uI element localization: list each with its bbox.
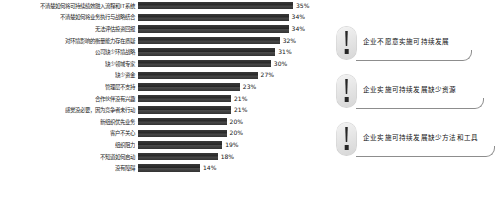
bar-track: 34% [138,23,340,35]
chart-row: 新组织优先业务20% [0,116,340,128]
bar-track: 19% [138,139,340,151]
bar-track: 23% [138,81,340,93]
bar-value-label: 27% [261,72,274,78]
bar-value-label: 18% [221,154,234,160]
callout: 企业实施可持续发展缺少方法和工具 [336,122,496,156]
bar-category-label: 感觉没必要，因为竞争者未行动 [0,107,138,113]
bar [138,153,218,160]
callout-label: 企业不愿意实施可持续发展 [363,38,449,47]
bar-category-label: 不清楚如何将业务执行与战略结合 [0,14,138,20]
bar-track: 20% [138,116,340,128]
bar-track: 14% [138,162,340,174]
chart-infographic: 不清楚如何将可持续绩效融入流程和IT系统35%不清楚如何将业务执行与战略结合34… [0,0,496,212]
callout-bubble [336,26,357,60]
chart-row: 感觉没必要，因为竞争者未行动21% [0,104,340,116]
bar [138,48,275,55]
callout-connector [356,98,484,109]
callout-bubble [336,122,357,156]
callout-connector [356,146,495,157]
bar-track: 21% [138,93,340,105]
bar-value-label: 19% [225,142,238,148]
bar [138,95,231,102]
bar-category-label: 新组织优先业务 [0,119,138,125]
chart-row: 客户不关心20% [0,128,340,140]
chart-row: 合作伙伴没有兴趣21% [0,93,340,105]
bar-value-label: 34% [292,14,305,20]
chart-row: 不清楚如何将可持续绩效融入流程和IT系统35% [0,0,340,12]
chart-row: 无法评估投资回报34% [0,23,340,35]
bar-value-label: 20% [230,130,243,136]
bar-value-label: 20% [230,119,243,125]
bar-track: 32% [138,35,340,47]
chart-row: 对环境影响的衡量能力存在质疑32% [0,35,340,47]
bar-category-label: 对环境影响的衡量能力存在质疑 [0,37,138,43]
bar [138,164,200,171]
bar [138,25,289,32]
bar-value-label: 23% [243,84,256,90]
bar-track: 21% [138,104,340,116]
bar-category-label: 没有障碍 [0,165,138,171]
exclamation-icon [345,79,349,94]
bar-track: 31% [138,46,340,58]
chart-row: 不清楚如何将业务执行与战略结合34% [0,12,340,24]
bar [138,141,222,148]
bar-value-label: 14% [203,165,216,171]
exclamation-icon [345,31,349,46]
callout-connector [356,50,472,61]
bar-category-label: 组织阻力 [0,142,138,148]
bar [138,106,231,113]
bar [138,118,227,125]
bar-category-label: 不知道如何启动 [0,153,138,159]
bar-value-label: 30% [274,61,287,67]
bar [138,60,271,67]
bar-category-label: 不清楚如何将可持续绩效融入流程和IT系统 [0,3,138,9]
bar [138,130,227,137]
bar-category-label: 缺少资金 [0,72,138,78]
bar-track: 27% [138,70,340,82]
exclamation-dot-icon [344,145,349,150]
bar [138,37,280,44]
bar-value-label: 31% [278,49,291,55]
bar-value-label: 21% [234,107,247,113]
bar-value-label: 21% [234,96,247,102]
bar-category-label: 客户不关心 [0,130,138,136]
chart-row: 组织阻力19% [0,139,340,151]
chart-row: 不知道如何启动18% [0,151,340,163]
bar-category-label: 公司缺少环境战略 [0,49,138,55]
chart-row: 缺少资金27% [0,70,340,82]
callout: 企业不愿意实施可持续发展 [336,26,496,60]
chart-row: 公司缺少环境战略31% [0,46,340,58]
exclamation-dot-icon [344,49,349,54]
chart-row: 管理层不支持23% [0,81,340,93]
callout: 企业实施可持续发展缺少资源 [336,74,496,108]
bar-category-label: 管理层不支持 [0,84,138,90]
chart-row: 没有障碍14% [0,162,340,174]
bar-track: 35% [138,0,340,12]
bar [138,14,289,21]
exclamation-dot-icon [344,97,349,102]
bar-category-label: 合作伙伴没有兴趣 [0,95,138,101]
bar-value-label: 35% [296,3,309,9]
bar-value-label: 34% [292,26,305,32]
bar-category-label: 无法评估投资回报 [0,26,138,32]
bar-track: 20% [138,128,340,140]
bar [138,72,258,79]
bar-value-label: 32% [283,38,296,44]
callout-bubble [336,74,357,108]
bar [138,2,293,9]
exclamation-icon [345,127,349,142]
bar-track: 18% [138,151,340,163]
callout-label: 企业实施可持续发展缺少资源 [363,86,457,95]
bar-track: 30% [138,58,340,70]
horizontal-bar-chart: 不清楚如何将可持续绩效融入流程和IT系统35%不清楚如何将业务执行与战略结合34… [0,0,340,212]
bar [138,83,240,90]
callout-group: 企业不愿意实施可持续发展企业实施可持续发展缺少资源企业实施可持续发展缺少方法和工… [336,18,496,194]
bar-track: 34% [138,12,340,24]
callout-label: 企业实施可持续发展缺少方法和工具 [363,134,478,143]
chart-row: 缺少领域专家30% [0,58,340,70]
bar-category-label: 缺少领域专家 [0,61,138,67]
